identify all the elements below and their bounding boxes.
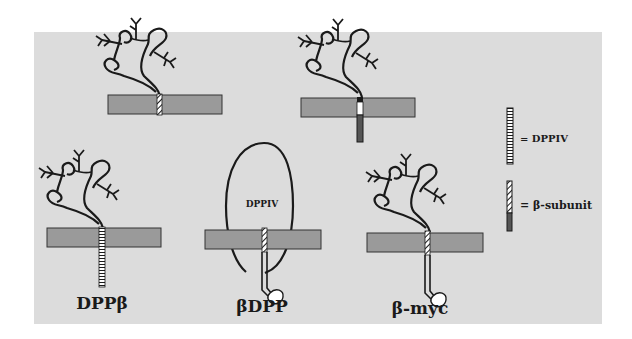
construct-label: DPPβ xyxy=(76,293,128,313)
beta-subunit-segment-icon-hatched xyxy=(507,181,512,213)
legend-item-dppiv: = DPPIV xyxy=(507,108,568,164)
membrane-bar xyxy=(108,95,222,114)
tm-segment-beta xyxy=(262,228,267,252)
diagram-canvas: DPPβ DPPIV βDPP β-myc = DPPIV = β-subuni… xyxy=(0,0,632,339)
legend-item-beta-subunit: = β-subunit xyxy=(507,181,593,231)
tm-segment-white xyxy=(357,102,363,115)
construct-top-left xyxy=(96,18,222,115)
construct-top-right xyxy=(298,19,415,142)
tm-segment-beta xyxy=(425,231,430,255)
legend-text-beta-subunit: = β-subunit xyxy=(520,199,593,212)
ectodomain-branched xyxy=(366,154,446,232)
tm-segment-dppiv xyxy=(99,227,105,287)
legend: = DPPIV = β-subunit xyxy=(507,108,593,231)
construct-dpp-beta: DPPβ xyxy=(39,150,161,313)
tm-segment-beta xyxy=(157,94,162,115)
cytoplasmic-tail xyxy=(357,115,363,142)
dppiv-segment-icon xyxy=(507,108,513,164)
construct-label: β-myc xyxy=(392,298,449,318)
cytoplasmic-tail xyxy=(425,255,435,299)
ectodomain-branched xyxy=(39,150,119,228)
beta-subunit-segment-icon xyxy=(507,213,512,231)
construct-label: βDPP xyxy=(236,296,288,316)
construct-beta-dpp: DPPIV βDPP xyxy=(205,143,321,316)
ectodomain-label: DPPIV xyxy=(246,199,280,209)
legend-text-dppiv: = DPPIV xyxy=(520,133,568,144)
cytoplasmic-tail xyxy=(262,252,272,296)
construct-beta-myc: β-myc xyxy=(366,154,483,318)
ectodomain-branched xyxy=(96,18,176,96)
ectodomain-branched xyxy=(298,19,378,97)
tm-segment-dppiv xyxy=(357,97,363,102)
